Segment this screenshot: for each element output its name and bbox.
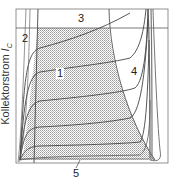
y-axis-label: Kollektorstrom IC: [0, 34, 13, 134]
y-axis-label-text: Kollektorstrom: [0, 54, 11, 124]
transistor-output-characteristic-diagram: [0, 0, 176, 180]
region-label-5: 5: [73, 168, 79, 179]
y-axis-subscript: C: [6, 43, 13, 48]
region-label-4: 4: [131, 66, 137, 77]
region-label-1: 1: [56, 68, 64, 79]
y-axis-symbol: I: [0, 48, 11, 51]
region-label-3: 3: [78, 13, 84, 24]
region-label-2: 2: [22, 33, 28, 44]
breakdown-curve-2: [151, 9, 152, 158]
